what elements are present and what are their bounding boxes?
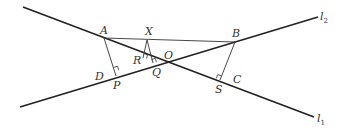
segment-AP <box>104 38 116 76</box>
label-C: C <box>233 73 242 86</box>
label-P: P <box>112 79 121 92</box>
label-B: B <box>231 27 240 40</box>
diagram-svg: A X B O R Q D P S C l2 l1 <box>0 0 344 131</box>
right-angle-R <box>144 54 148 59</box>
geometry-diagram: A X B O R Q D P S C l2 l1 <box>0 0 344 131</box>
segment-AB <box>104 38 235 42</box>
label-D: D <box>94 70 104 83</box>
segment-XR <box>143 40 147 58</box>
label-A: A <box>99 24 108 37</box>
label-R: R <box>132 54 141 67</box>
label-O: O <box>164 49 173 62</box>
label-l1: l1 <box>317 112 325 127</box>
label-X: X <box>144 25 154 38</box>
line-l2 <box>20 17 318 107</box>
label-l2: l2 <box>320 10 328 25</box>
label-S: S <box>215 83 223 96</box>
label-Q: Q <box>152 66 161 79</box>
